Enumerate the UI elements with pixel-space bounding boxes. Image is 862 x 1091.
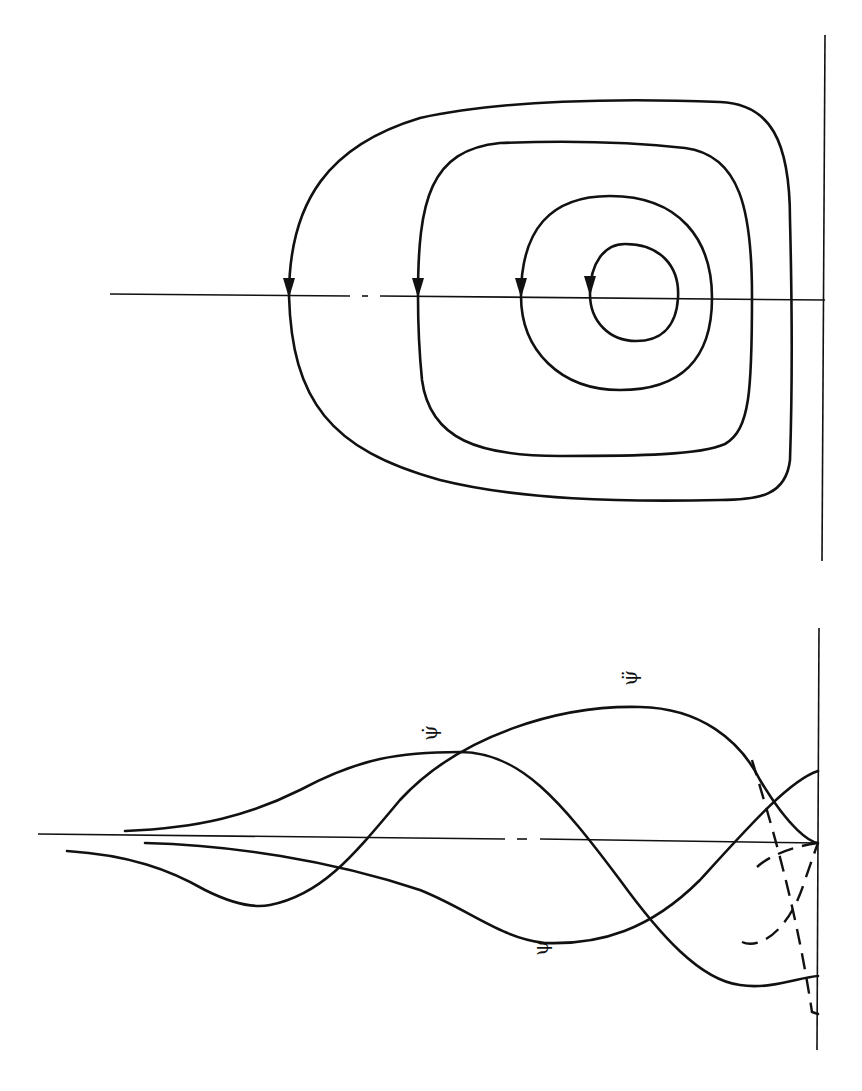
arrow-down-icon [412, 278, 424, 298]
label-psi-ddot: ψ̈ [618, 670, 642, 686]
curve-psi-dot [125, 752, 818, 986]
curve-psi-ddot [67, 707, 818, 906]
phase-portrait-panel [110, 35, 825, 561]
svg-text:ψ̇: ψ̇ [418, 725, 442, 741]
arrow-down-icon [584, 276, 596, 296]
svg-text:ψ̈: ψ̈ [618, 670, 642, 686]
orbit-third [521, 196, 712, 390]
svg-text:ψ: ψ [529, 940, 553, 956]
bottom-horizontal-axis [38, 834, 819, 843]
top-vertical-axis [822, 35, 825, 561]
dashed-branch-axis [757, 843, 818, 867]
top-horizontal-axis [110, 294, 825, 300]
waveforms-panel: ψ̇ ψ̈ ψ [38, 628, 819, 1050]
dashed-branch-upper [752, 760, 812, 1012]
figure-canvas: ψ̇ ψ̈ ψ [0, 0, 862, 1091]
label-psi-dot: ψ̇ [418, 725, 442, 741]
orbit-inner [590, 244, 678, 341]
arrow-down-icon [515, 278, 527, 298]
curve-psi [145, 771, 818, 943]
label-psi: ψ [529, 940, 553, 956]
bottom-vertical-axis [817, 628, 819, 1050]
